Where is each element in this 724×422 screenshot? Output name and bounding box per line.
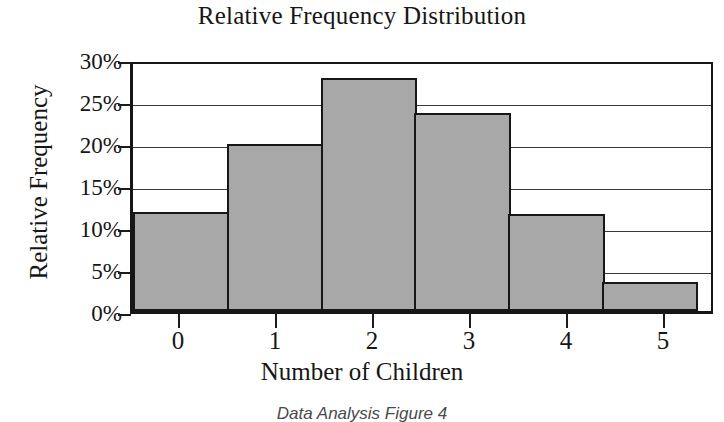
- x-tick-label-2: 2: [342, 327, 402, 355]
- bar-0: [133, 212, 229, 311]
- chart-title: Relative Frequency Distribution: [0, 2, 724, 30]
- y-tick-label-15: 15%: [30, 176, 122, 199]
- y-tick-label-30: 30%: [30, 50, 122, 73]
- y-tick-label-20: 20%: [30, 134, 122, 157]
- x-tick-mark-0: [178, 312, 180, 328]
- y-tick-label-10: 10%: [30, 218, 122, 241]
- x-tick-mark-5: [663, 312, 665, 328]
- y-tick-label-25: 25%: [30, 92, 122, 115]
- x-tick-label-1: 1: [245, 327, 305, 355]
- bar-3: [414, 113, 510, 311]
- plot-area: [130, 62, 713, 314]
- x-tick-label-3: 3: [439, 327, 499, 355]
- x-tick-label-5: 5: [633, 327, 693, 355]
- x-axis-title: Number of Children: [0, 358, 724, 386]
- x-tick-label-4: 4: [536, 327, 596, 355]
- y-tick-label-0: 0%: [30, 302, 122, 325]
- bar-series: [133, 64, 711, 311]
- x-tick-mark-2: [372, 312, 374, 328]
- bar-1: [227, 144, 323, 311]
- x-tick-mark-1: [275, 312, 277, 328]
- bar-4: [508, 214, 604, 311]
- x-tick-mark-4: [566, 312, 568, 328]
- x-tick-mark-3: [469, 312, 471, 328]
- y-tick-mark-0: [118, 314, 131, 316]
- bar-2: [321, 78, 417, 311]
- figure-caption: Data Analysis Figure 4: [0, 404, 724, 422]
- y-tick-label-5: 5%: [30, 260, 122, 283]
- chart-figure: Relative Frequency Distribution Relative…: [0, 0, 724, 422]
- x-tick-label-0: 0: [148, 327, 208, 355]
- bar-5: [602, 282, 698, 311]
